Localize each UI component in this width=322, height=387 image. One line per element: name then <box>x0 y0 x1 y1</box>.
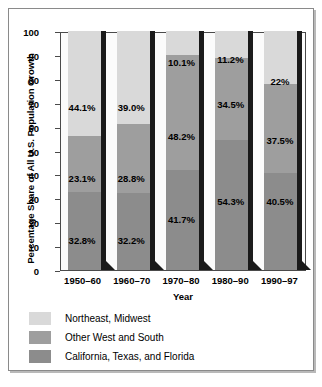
bar-value-label: 28.8% <box>118 174 145 184</box>
legend-label: Other West and South <box>65 332 164 343</box>
y-tick-label: 50 <box>15 146 39 157</box>
x-tick-label: 1950–60 <box>58 275 107 286</box>
y-tick-label: 30 <box>15 194 39 205</box>
bar-shadow <box>199 31 204 270</box>
bar-shadow-foot <box>155 261 164 270</box>
bar-value-label: 40.5% <box>266 197 293 207</box>
legend-label: Northeast, Midwest <box>65 313 151 324</box>
bar-segment[interactable] <box>264 173 297 270</box>
x-axis-title: Year <box>60 291 306 302</box>
bar-value-label: 34.5% <box>217 100 244 110</box>
bar-value-label: 32.8% <box>69 236 96 246</box>
x-tick-label: 1970–80 <box>156 275 205 286</box>
bar-segment[interactable] <box>264 84 297 174</box>
bar-value-label: 48.2% <box>168 132 195 142</box>
bar-value-label: 44.1% <box>69 103 96 113</box>
bar-shadow <box>248 31 253 270</box>
bar-value-label: 37.5% <box>266 136 293 146</box>
bar-shadow-foot <box>253 261 262 270</box>
chart-legend: Northeast, MidwestOther West and SouthCa… <box>29 309 299 366</box>
bars-container: 32.8%23.1%44.1%32.2%28.8%39.0%41.7%48.2%… <box>61 33 305 270</box>
bar-stack <box>264 31 297 270</box>
legend-swatch <box>29 350 51 363</box>
bar-group[interactable] <box>215 31 248 270</box>
legend-swatch <box>29 331 51 344</box>
bar-shadow-foot <box>106 261 115 270</box>
y-tick-label: 80 <box>15 74 39 85</box>
legend-label: California, Texas, and Florida <box>65 351 194 362</box>
bar-segment[interactable] <box>117 193 150 270</box>
bar-segment[interactable] <box>68 31 101 136</box>
bar-value-label: 11.2% <box>217 55 243 65</box>
x-tick-label: 1960–70 <box>107 275 156 286</box>
bar-shadow <box>101 31 106 270</box>
bar-shadow <box>150 31 155 270</box>
bar-shadow <box>297 31 302 270</box>
y-tick-label: 90 <box>15 50 39 61</box>
bar-value-label: 32.2% <box>118 236 145 246</box>
figure-frame: Percentage Share of All U.S. Population … <box>8 8 314 371</box>
bar-stack <box>215 31 248 270</box>
bar-value-label: 22% <box>270 77 289 87</box>
bar-segment[interactable] <box>166 31 199 55</box>
bar-value-label: 54.3% <box>217 197 244 207</box>
legend-item[interactable]: Northeast, Midwest <box>29 309 299 328</box>
legend-swatch <box>29 312 51 325</box>
plot-area: 32.8%23.1%44.1%32.2%28.8%39.0%41.7%48.2%… <box>60 32 306 271</box>
legend-item[interactable]: Other West and South <box>29 328 299 347</box>
x-tick-label: 1980–90 <box>206 275 255 286</box>
bar-segment[interactable] <box>166 55 199 170</box>
y-tick-label: 70 <box>15 98 39 109</box>
bar-segment[interactable] <box>68 192 101 270</box>
y-tick-label: 100 <box>15 27 39 38</box>
bar-value-label: 23.1% <box>69 174 96 184</box>
legend-item[interactable]: California, Texas, and Florida <box>29 347 299 366</box>
y-tick-label: 20 <box>15 218 39 229</box>
bar-shadow-foot <box>302 261 311 270</box>
bar-value-label: 10.1% <box>168 58 195 68</box>
y-tick-label: 10 <box>15 242 39 253</box>
bar-shadow-foot <box>204 261 213 270</box>
y-tick-label: 60 <box>15 122 39 133</box>
x-tick-label: 1990–97 <box>255 275 304 286</box>
bar-value-label: 39.0% <box>118 103 145 113</box>
chart-figure: Percentage Share of All U.S. Population … <box>0 0 322 387</box>
y-tick-mark <box>55 271 60 272</box>
bar-value-label: 41.7% <box>168 215 195 225</box>
y-tick-label: 40 <box>15 170 39 181</box>
y-tick-label: 0 <box>15 266 39 277</box>
bar-group[interactable] <box>264 31 297 270</box>
